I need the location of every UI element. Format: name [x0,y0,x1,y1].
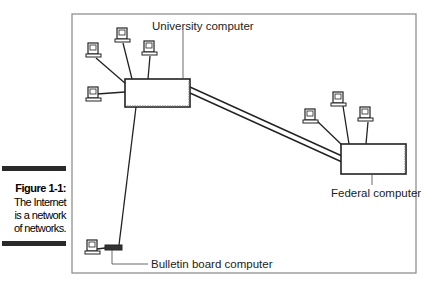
terminal-icon [331,92,346,106]
bulletin-board-modem [105,245,122,250]
terminal-icon [303,109,318,123]
network-diagram: University computer Federal computer Bul… [0,0,439,289]
federal-computer-label: Federal computer [331,187,421,199]
federal-computer-box [341,144,406,174]
terminal-icon [115,28,130,42]
university-computer-label: University computer [152,20,254,32]
terminal-icon [86,43,101,57]
university-computer-box [125,79,190,107]
terminal-icon [358,107,373,121]
bulletin-board-label: Bulletin board computer [151,258,273,270]
terminal-icon [85,240,100,254]
terminal-icon [142,41,157,55]
